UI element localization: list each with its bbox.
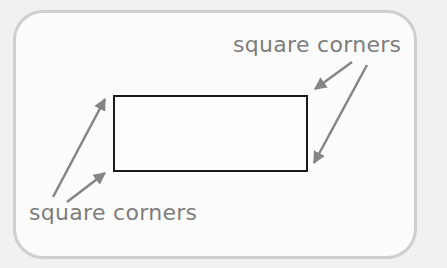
arrow-icon-top-right-lower — [314, 65, 367, 163]
arrow-icon-top-right-upper — [315, 62, 352, 89]
arrow-icon-bottom-left-upper — [53, 99, 105, 197]
arrow-icon-bottom-left-lower — [67, 173, 105, 202]
arrows-layer — [0, 0, 447, 268]
